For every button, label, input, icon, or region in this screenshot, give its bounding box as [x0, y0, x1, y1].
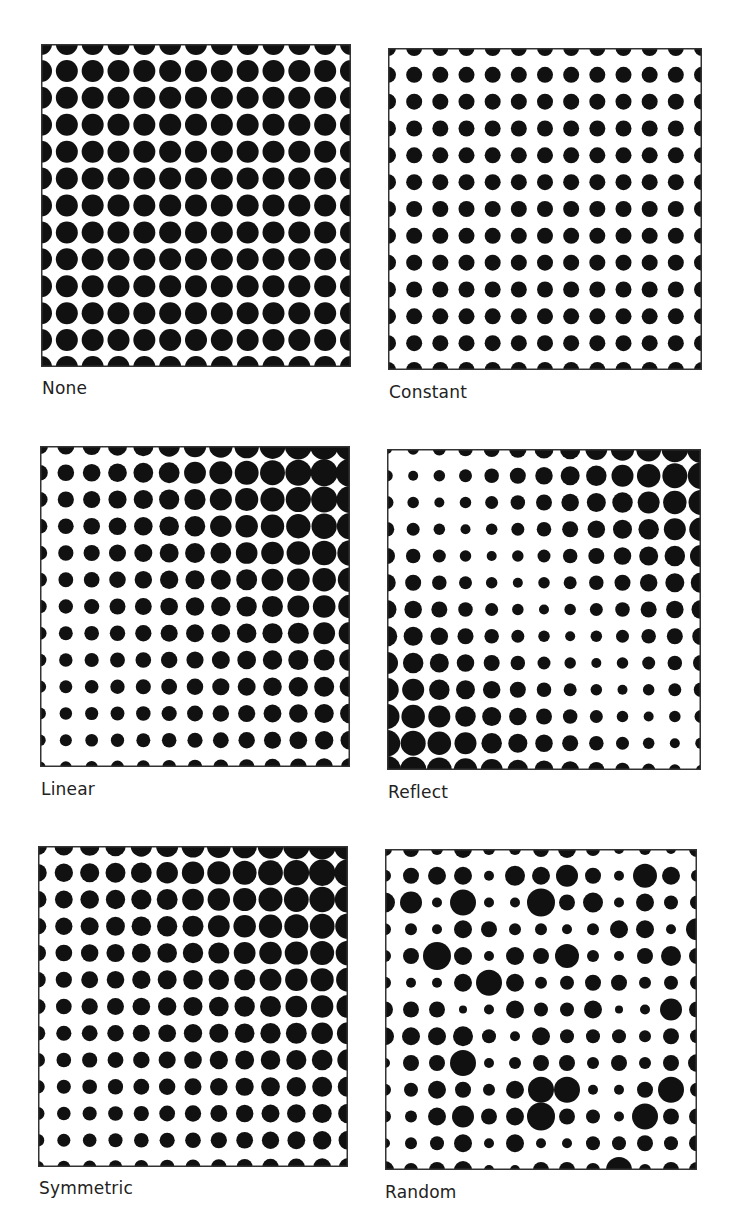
- halftone-dot: [287, 1104, 306, 1123]
- halftone-dot: [483, 1084, 495, 1096]
- panel-label-random: Random: [385, 1182, 457, 1202]
- halftone-dot: [284, 914, 308, 938]
- halftone-dot: [133, 998, 151, 1016]
- halftone-dot: [406, 201, 422, 217]
- halftone-dot: [612, 1136, 626, 1150]
- halftone-dot: [211, 302, 233, 324]
- panel-label-constant: Constant: [389, 382, 467, 402]
- halftone-dot: [583, 893, 603, 913]
- halftone-dot: [135, 598, 152, 615]
- halftone-dot: [133, 463, 153, 483]
- halftone-dot: [668, 94, 684, 110]
- halftone-dot: [401, 731, 426, 756]
- panel-label-none: None: [42, 378, 87, 398]
- halftone-dot: [315, 704, 334, 723]
- halftone-dot: [56, 302, 78, 324]
- halftone-dot: [614, 1112, 624, 1122]
- halftone-dot: [512, 604, 524, 616]
- halftone-dot: [85, 680, 99, 694]
- halftone-dot: [133, 195, 155, 217]
- halftone-dot: [668, 201, 684, 217]
- halftone-dot: [134, 1106, 149, 1121]
- halftone-dot: [237, 114, 259, 136]
- halftone-dot: [211, 570, 231, 590]
- halftone-dot: [537, 255, 553, 271]
- halftone-dot: [132, 971, 150, 989]
- halftone-dot: [235, 515, 257, 537]
- halftone-dot: [536, 709, 552, 725]
- halftone-dot: [402, 679, 424, 701]
- halftone-dot: [633, 864, 657, 888]
- halftone-dot: [286, 487, 311, 512]
- halftone-dot: [511, 94, 527, 110]
- halftone-dot: [82, 60, 104, 82]
- halftone-dot: [586, 1136, 600, 1150]
- halftone-dot: [211, 1132, 227, 1148]
- halftone-dot: [108, 60, 130, 82]
- halftone-dot: [642, 94, 658, 110]
- halftone-dot: [510, 682, 526, 698]
- halftone-dot: [311, 459, 338, 486]
- halftone-dot: [668, 67, 684, 83]
- halftone-dot: [408, 471, 418, 481]
- halftone-dot: [432, 924, 442, 934]
- halftone-dot: [527, 889, 555, 917]
- halftone-dot: [58, 464, 75, 481]
- halftone-dot: [210, 1105, 227, 1122]
- halftone-dot: [616, 737, 629, 750]
- halftone-dot: [532, 1027, 550, 1045]
- halftone-dot: [431, 602, 447, 618]
- halftone-dot: [588, 521, 606, 539]
- halftone-dot: [554, 1077, 580, 1103]
- panel-symmetric: [38, 846, 348, 1167]
- halftone-dot: [641, 629, 656, 644]
- halftone-dot: [591, 684, 603, 696]
- halftone-dot: [511, 495, 526, 510]
- halftone-dot: [185, 60, 207, 82]
- halftone-dot: [237, 302, 259, 324]
- halftone-dot: [313, 595, 336, 618]
- halftone-dot: [458, 602, 473, 617]
- halftone-dot: [288, 195, 310, 217]
- halftone-dot: [159, 489, 179, 509]
- halftone-dot: [460, 497, 472, 509]
- halftone-dot: [186, 624, 204, 642]
- halftone-dot: [56, 87, 78, 109]
- halftone-dot: [207, 861, 230, 884]
- halftone-dot: [312, 1050, 333, 1071]
- halftone-dot: [208, 888, 230, 910]
- halftone-dot: [82, 221, 104, 243]
- halftone-dot: [108, 141, 130, 163]
- halftone-dot: [237, 141, 259, 163]
- halftone-dot: [260, 1023, 280, 1043]
- halftone-dot: [434, 470, 446, 482]
- halftone-dot: [314, 650, 335, 671]
- halftone-dot: [537, 683, 552, 698]
- halftone-dot: [57, 1080, 71, 1094]
- halftone-dot: [237, 275, 259, 297]
- panel-linear: [40, 446, 350, 767]
- halftone-dot: [82, 87, 104, 109]
- halftone-dot: [432, 121, 448, 137]
- halftone-dot: [587, 493, 606, 512]
- halftone-dot: [85, 734, 98, 747]
- halftone-dot: [135, 571, 152, 588]
- halftone-dot: [183, 970, 203, 990]
- halftone-dot: [664, 976, 678, 990]
- halftone-dot: [159, 1051, 176, 1068]
- halftone-dot: [434, 524, 446, 536]
- halftone-dot: [185, 1078, 202, 1095]
- halftone-dot: [110, 626, 125, 641]
- panel-label-symmetric: Symmetric: [39, 1178, 133, 1198]
- halftone-dot: [405, 575, 421, 591]
- halftone-dot: [59, 680, 72, 693]
- halftone-dot: [314, 87, 336, 109]
- halftone-dot: [185, 114, 207, 136]
- halftone-dot: [82, 1052, 97, 1067]
- halftone-dot: [84, 599, 99, 614]
- halftone-dot: [111, 734, 124, 747]
- halftone-dot: [459, 1006, 467, 1014]
- halftone-dot: [161, 652, 177, 668]
- halftone-dot: [590, 710, 603, 723]
- halftone-dot: [290, 731, 308, 749]
